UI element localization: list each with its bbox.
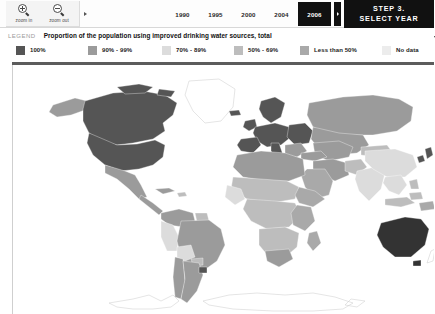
legend-title-row: LEGEND Proportion of the population usin… (0, 29, 272, 42)
zoom-out-label: zoom out (42, 18, 76, 24)
legend-item-70-89[interactable]: 70% - 89% (162, 43, 206, 57)
world-choropleth-svg (13, 65, 434, 314)
legend-panel: LEGEND Proportion of the population usin… (0, 28, 434, 64)
legend-item-50-69[interactable]: 50% - 69% (234, 43, 278, 57)
step-3-callout: STEP 3. SELECT YEAR (344, 0, 434, 28)
legend-item-less-than-50[interactable]: Less than 50% (300, 43, 357, 57)
legend-item-100[interactable]: 100% (16, 43, 46, 57)
year-tab-2006[interactable]: 2006 (298, 2, 331, 26)
legend-swatch-icon (88, 46, 97, 55)
magnifier-plus-icon (18, 4, 29, 15)
year-next-button[interactable] (334, 2, 341, 26)
zoom-in-button[interactable]: zoom in (7, 3, 41, 26)
legend-item-label: Less than 50% (314, 47, 357, 53)
legend-item-label: No data (396, 47, 419, 53)
year-tab-1995[interactable]: 1995 (199, 2, 232, 26)
legend-item-no-data[interactable]: No data (382, 43, 419, 57)
callout-line-1: STEP 3. (373, 4, 405, 14)
legend-swatch-icon (234, 46, 243, 55)
year-tab-2000[interactable]: 2000 (232, 2, 265, 26)
legend-item-label: 100% (30, 47, 46, 53)
zoom-controls-group: zoom in zoom out (6, 1, 80, 27)
legend-swatch-icon (16, 46, 25, 55)
zoom-out-button[interactable]: zoom out (42, 3, 76, 26)
legend-swatch-icon (300, 46, 309, 55)
legend-item-label: 90% - 99% (102, 47, 132, 53)
map-canvas[interactable] (12, 65, 434, 314)
legend-item-label: 70% - 89% (176, 47, 206, 53)
legend-item-90-99[interactable]: 90% - 99% (88, 43, 132, 57)
callout-line-2: SELECT YEAR (360, 14, 419, 24)
legend-items: 100% 90% - 99% 70% - 89% 50% - 69% Less … (0, 43, 434, 61)
legend-swatch-icon (162, 46, 171, 55)
map-toolbar: zoom in zoom out 1990 1995 2000 2004 200… (0, 0, 434, 28)
caret-right-icon[interactable] (84, 12, 87, 16)
zoom-in-label: zoom in (7, 18, 41, 24)
magnifier-minus-icon (53, 4, 64, 15)
legend-item-label: 50% - 69% (248, 47, 278, 53)
year-tab-1990[interactable]: 1990 (166, 2, 199, 26)
year-tab-2004[interactable]: 2004 (265, 2, 298, 26)
year-tab-bar: 1990 1995 2000 2004 2006 (166, 2, 341, 26)
legend-word: LEGEND (8, 33, 36, 39)
legend-title: Proportion of the population using impro… (44, 32, 272, 39)
legend-swatch-icon (382, 46, 391, 55)
